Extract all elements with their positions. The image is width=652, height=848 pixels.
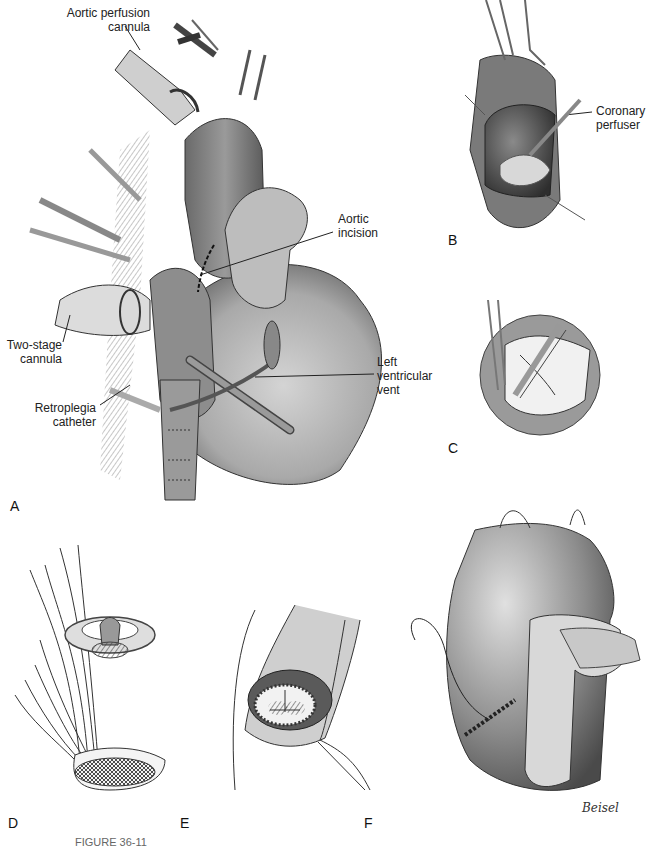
label-line: cannula [0, 352, 62, 366]
label-line: catheter [0, 415, 96, 429]
panel-letter-d: D [8, 815, 18, 831]
panel-letter-b: B [448, 232, 457, 248]
label-retroplegia-catheter: Retroplegia catheter [0, 401, 96, 429]
panel-letter-c: C [448, 440, 458, 456]
label-line: Left [377, 355, 432, 369]
label-coronary-perfuser: Coronary perfuser [596, 104, 645, 132]
label-line: incision [338, 226, 378, 240]
panel-b-opened-aorta [465, 0, 585, 228]
artist-signature: Beisel [581, 801, 619, 815]
panel-e-valve-seated [233, 605, 370, 790]
label-two-stage-cannula: Two-stage cannula [0, 338, 62, 366]
label-line: Aortic [338, 212, 378, 226]
label-line: Two-stage [0, 338, 62, 352]
label-line: ventricular [377, 369, 432, 383]
label-line: Coronary [596, 104, 645, 118]
figure-caption-partial: FIGURE 36-11 [75, 836, 147, 848]
panel-letter-e: E [180, 815, 189, 831]
label-line: Retroplegia [0, 401, 96, 415]
panel-c-valve-excision [480, 300, 600, 435]
panel-d-prosthetic-valve [15, 545, 165, 790]
label-line: Aortic perfusion [40, 6, 150, 20]
panel-f-aortotomy-closure: Beisel [411, 510, 640, 815]
panel-letter-f: F [364, 815, 373, 831]
panel-letter-a: A [10, 498, 19, 514]
label-line: cannula [40, 20, 150, 34]
label-line: vent [377, 383, 432, 397]
label-left-ventricular-vent: Left ventricular vent [377, 355, 432, 397]
label-line: perfuser [596, 118, 645, 132]
label-aortic-incision: Aortic incision [338, 212, 378, 240]
label-aortic-perfusion-cannula: Aortic perfusion cannula [40, 6, 150, 34]
